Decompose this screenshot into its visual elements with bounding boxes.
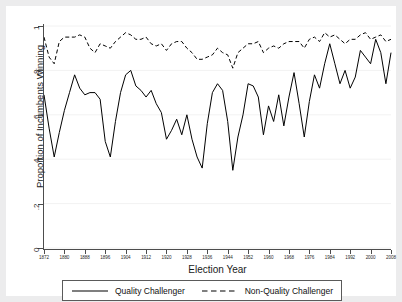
x-tick-label: 1912 [141,255,151,260]
x-tick-mark [248,250,249,254]
x-tick-mark [330,250,331,254]
x-tick-mark [146,250,147,254]
x-tick-mark [269,250,270,254]
legend-box: Quality Challenger Non-Quality Challenge… [62,280,342,301]
x-tick-label: 2000 [366,255,376,260]
y-tick-label: .2 [32,203,41,233]
legend-label-quality-challenger: Quality Challenger [115,286,185,296]
x-tick-mark [228,250,229,254]
legend-item-non-quality-challenger: Non-Quality Challenger [201,286,333,296]
x-axis-line [43,249,391,250]
legend-key-solid-line [71,286,109,296]
x-tick-mark [85,250,86,254]
plot-area [44,26,391,248]
x-tick-label: 1928 [182,255,192,260]
x-tick-label: 1992 [345,255,355,260]
x-tick-label: 1976 [304,255,314,260]
x-tick-mark [64,250,65,254]
x-tick-mark [371,250,372,254]
x-tick-label: 1880 [59,255,69,260]
legend-key-dashed-line [201,286,239,296]
x-tick-label: 1872 [39,255,49,260]
x-tick-label: 1936 [202,255,212,260]
x-tick-mark [126,250,127,254]
x-tick-label: 1984 [325,255,335,260]
x-tick-mark [105,250,106,254]
y-tick-label: 0 [32,248,41,278]
figure-canvas: 0.2.4.6.81 18721880188818961904191219201… [6,6,396,296]
x-tick-mark [391,250,392,254]
x-tick-label: 1920 [162,255,172,260]
x-tick-label: 2008 [386,255,396,260]
legend-item-quality-challenger: Quality Challenger [71,286,185,296]
y-axis-title: Proportion of Incumbents Winning [34,27,45,207]
x-tick-mark [207,250,208,254]
data-lines [44,26,391,248]
x-tick-mark [350,250,351,254]
x-tick-label: 1952 [243,255,253,260]
x-tick-mark [166,250,167,254]
x-tick-label: 1960 [264,255,274,260]
x-tick-mark [44,250,45,254]
x-tick-label: 1904 [121,255,131,260]
x-tick-mark [187,250,188,254]
x-tick-label: 1944 [223,255,233,260]
x-tick-label: 1968 [284,255,294,260]
x-tick-label: 1896 [100,255,110,260]
x-tick-mark [309,250,310,254]
x-axis-title: Election Year [44,264,391,275]
x-tick-label: 1888 [80,255,90,260]
legend-label-non-quality-challenger: Non-Quality Challenger [245,286,333,296]
x-tick-mark [289,250,290,254]
